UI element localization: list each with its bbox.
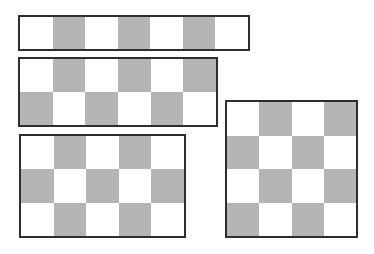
dark-cell — [85, 92, 118, 125]
light-cell — [54, 169, 87, 202]
light-cell — [53, 92, 86, 125]
light-cell — [21, 203, 54, 236]
dark-cell — [259, 169, 291, 203]
dark-cell — [227, 203, 259, 237]
dark-cell — [151, 92, 184, 125]
light-cell — [227, 169, 259, 203]
dark-cell — [21, 169, 54, 202]
light-cell — [324, 136, 356, 170]
light-cell — [118, 92, 151, 125]
grid-4x4 — [225, 100, 358, 238]
dark-cell — [151, 169, 184, 202]
light-cell — [85, 17, 118, 49]
grid-7x1 — [18, 15, 250, 51]
dark-cell — [54, 203, 87, 236]
light-cell — [324, 203, 356, 237]
dark-cell — [324, 169, 356, 203]
light-cell — [150, 17, 183, 49]
light-cell — [259, 136, 291, 170]
dark-cell — [324, 102, 356, 136]
light-cell — [86, 136, 119, 169]
dark-cell — [119, 203, 152, 236]
dark-cell — [53, 59, 86, 92]
light-cell — [85, 59, 118, 92]
light-cell — [227, 102, 259, 136]
dark-cell — [227, 136, 259, 170]
light-cell — [183, 92, 216, 125]
dark-cell — [20, 92, 53, 125]
dark-cell — [54, 136, 87, 169]
light-cell — [20, 17, 53, 49]
dark-cell — [86, 169, 119, 202]
light-cell — [215, 17, 248, 49]
dark-cell — [259, 102, 291, 136]
light-cell — [259, 203, 291, 237]
dark-cell — [183, 17, 216, 49]
dark-cell — [119, 136, 152, 169]
dark-cell — [292, 203, 324, 237]
light-cell — [292, 102, 324, 136]
dark-cell — [183, 59, 216, 92]
light-cell — [21, 136, 54, 169]
dark-cell — [292, 136, 324, 170]
grid-5x3 — [19, 134, 186, 238]
light-cell — [119, 169, 152, 202]
light-cell — [151, 59, 184, 92]
light-cell — [151, 203, 184, 236]
light-cell — [151, 136, 184, 169]
light-cell — [292, 169, 324, 203]
light-cell — [20, 59, 53, 92]
dark-cell — [118, 59, 151, 92]
dark-cell — [53, 17, 86, 49]
grid-6x2 — [18, 57, 218, 127]
dark-cell — [118, 17, 151, 49]
light-cell — [86, 203, 119, 236]
